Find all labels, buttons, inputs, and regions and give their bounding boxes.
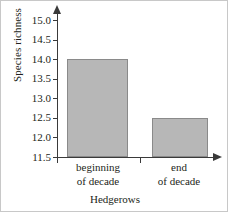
y-tick-label: 12.0 <box>5 132 51 143</box>
y-tick-label: 15.0 <box>5 15 51 26</box>
x-category-label-line: beginning <box>57 161 139 175</box>
y-tick-label: 12.5 <box>5 112 51 123</box>
y-tick-mark <box>53 79 58 80</box>
y-tick-label: 13.5 <box>5 73 51 84</box>
bar-beginning-of-decade <box>67 59 128 157</box>
bar-end-of-decade <box>152 118 208 157</box>
x-category-label-line: of decade <box>57 175 139 189</box>
x-axis-title: Hedgerows <box>1 193 228 205</box>
y-tick-mark <box>53 40 58 41</box>
x-category-label-line: end <box>141 161 217 175</box>
y-axis-arrow-icon <box>53 5 61 14</box>
y-tick-label: 14.5 <box>5 34 51 45</box>
y-tick-label: 14.0 <box>5 54 51 65</box>
x-category-label-end: end of decade <box>141 161 217 188</box>
y-tick-mark <box>53 20 58 21</box>
x-category-label-line: of decade <box>141 175 217 189</box>
bar-chart-figure: Species richness 15.0 14.5 14.0 13.5 13.… <box>0 0 228 212</box>
y-tick-label: 13.0 <box>5 93 51 104</box>
y-axis-line <box>57 13 58 158</box>
y-tick-label: 11.5 <box>5 152 51 163</box>
y-tick-mark <box>53 118 58 119</box>
x-category-label-beginning: beginning of decade <box>57 161 139 188</box>
y-tick-mark <box>53 137 58 138</box>
y-tick-mark <box>53 98 58 99</box>
x-axis-arrow-icon <box>213 153 222 161</box>
x-axis-line <box>57 157 214 158</box>
y-tick-mark <box>53 59 58 60</box>
